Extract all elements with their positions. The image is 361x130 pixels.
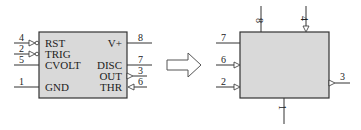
inversion-bubble-icon: [35, 41, 39, 45]
diagram-canvas: 4 RST 2 TRIG 5 CVOLT 1 GND 8 V+ 7 DISC 3…: [0, 0, 361, 130]
pin-number: 4: [19, 32, 24, 43]
pin-number: 8: [254, 18, 265, 23]
pin-number: 6: [138, 76, 143, 87]
input-arrow-icon: [234, 84, 240, 90]
input-arrow-icon: [128, 84, 134, 90]
buffer-icon: [29, 40, 35, 46]
pin-label-vplus: V+: [108, 37, 122, 49]
input-arrow-icon: [234, 62, 240, 68]
right-arrow-icon: [167, 53, 201, 77]
output-arrow-icon: [329, 80, 335, 86]
right-block-symbol: 8 4 7 6 2 3 1: [216, 6, 350, 124]
pin-label-cvolt: CVOLT: [45, 59, 81, 71]
right-block-body: [240, 32, 329, 98]
pin-number: 6: [221, 54, 226, 65]
left-chip-555: 4 RST 2 TRIG 5 CVOLT 1 GND 8 V+ 7 DISC 3…: [14, 32, 152, 98]
pin-number: 2: [221, 76, 226, 87]
pin-label-thr: THR: [100, 81, 123, 93]
output-arrow-icon: [127, 73, 133, 79]
pin-number: 1: [277, 105, 288, 110]
pin-number: 3: [138, 65, 143, 76]
pin-number: 7: [221, 32, 226, 43]
pin-number: 4: [299, 16, 310, 21]
input-arrow-icon: [303, 26, 309, 32]
inversion-bubble-icon: [35, 52, 39, 56]
pin-number: 5: [19, 54, 24, 65]
buffer-icon: [29, 51, 35, 57]
pin-number: 2: [19, 43, 24, 54]
pin-number: 7: [138, 54, 143, 65]
pin-number: 1: [19, 76, 24, 87]
pin-label-gnd: GND: [45, 81, 69, 93]
pin-number: 3: [340, 71, 345, 82]
pin-number: 8: [138, 32, 143, 43]
